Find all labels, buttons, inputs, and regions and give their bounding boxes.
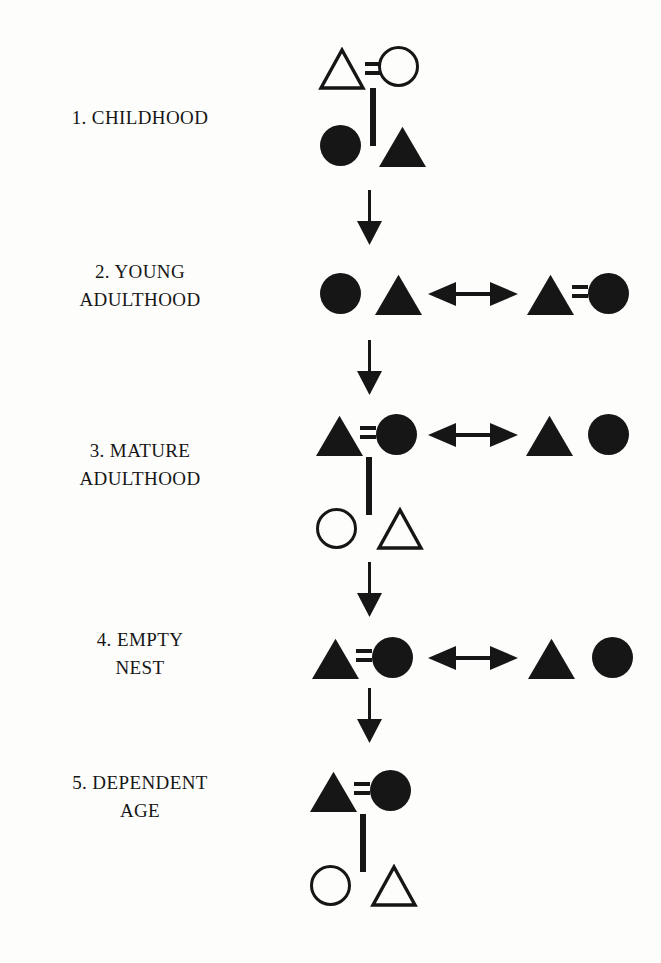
stage-1-descent-line: [370, 88, 376, 146]
stage-4-other-female-filled-circle: [592, 637, 633, 678]
stage-4-parent-female-filled-circle: [372, 637, 413, 678]
stage-1-parent-female-open-circle: [378, 46, 419, 87]
stage-5-child-female-open-circle: [310, 865, 351, 906]
stage-3-marriage-equals: [360, 426, 376, 439]
stage-3-parent-female-filled-circle: [376, 414, 417, 455]
stage-5-parent-male-filled-triangle: [310, 771, 357, 812]
stage-2-household-relation-double-arrow: [428, 278, 518, 310]
stage-label-3-line-2: ADULTHOOD: [79, 468, 200, 489]
stage-3-descent-line: [366, 457, 372, 515]
stage-5-descent-line: [360, 814, 366, 872]
stage-label-4-line-1: 4. EMPTY: [97, 629, 184, 650]
stage-3-other-female-filled-circle: [588, 414, 629, 455]
stage-1-child-female-filled-circle: [320, 125, 361, 166]
stage-4-parent-male-filled-triangle: [312, 638, 359, 679]
stage-1-parent-male-open-triangle: [318, 47, 366, 91]
stage-label-2: 2. YOUNGADULTHOOD: [20, 258, 260, 314]
stage-3-parent-male-filled-triangle: [316, 415, 363, 456]
stage-label-2-line-2: ADULTHOOD: [79, 289, 200, 310]
stage-3-household-relation-double-arrow: [428, 419, 518, 451]
stage-3-child-male-open-triangle: [376, 507, 424, 551]
stage-label-1: 1. CHILDHOOD: [20, 104, 260, 132]
transition-arrow-3-to-4: [340, 562, 400, 618]
stage-3-child-female-open-circle: [316, 508, 357, 549]
stage-label-5-line-1: 5. DEPENDENT: [72, 772, 208, 793]
stage-2-spouse-male-filled-triangle: [527, 274, 574, 315]
stage-label-4: 4. EMPTYNEST: [20, 626, 260, 682]
stage-label-4-line-2: NEST: [115, 657, 164, 678]
stage-4-household-relation-double-arrow: [428, 642, 518, 674]
stage-5-child-male-open-triangle: [370, 864, 418, 908]
stage-label-5: 5. DEPENDENTAGE: [10, 769, 270, 825]
stage-2-male-filled-triangle: [375, 274, 422, 315]
transition-arrow-4-to-5: [340, 688, 400, 744]
stage-2-marriage-equals: [572, 285, 588, 298]
transition-arrow-1-to-2: [340, 190, 400, 246]
stage-4-marriage-equals: [356, 649, 372, 662]
stage-label-5-line-2: AGE: [120, 800, 160, 821]
stage-2-spouse-female-filled-circle: [588, 273, 629, 314]
stage-5-parent-female-filled-circle: [370, 770, 411, 811]
transition-arrow-2-to-3: [340, 340, 400, 396]
stage-2-female-filled-circle: [320, 273, 361, 314]
stage-3-other-male-filled-triangle: [526, 415, 573, 456]
diagram-canvas: 1. CHILDHOOD 2. YOUNGADULTHOOD 3. MAT: [0, 0, 661, 963]
stage-label-3: 3. MATUREADULTHOOD: [20, 437, 260, 493]
stage-label-2-line-1: 2. YOUNG: [95, 261, 185, 282]
stage-label-3-line-1: 3. MATURE: [90, 440, 191, 461]
stage-1-child-male-filled-triangle: [379, 126, 426, 167]
stage-5-marriage-equals: [354, 782, 370, 795]
stage-4-other-male-filled-triangle: [528, 638, 575, 679]
